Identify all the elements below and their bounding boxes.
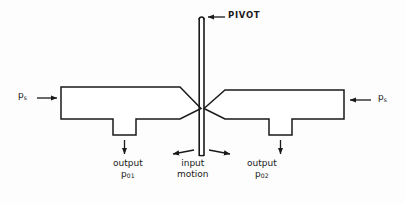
output-right-symbol: p [255, 169, 261, 179]
output-left-label: output p01 [113, 158, 143, 179]
supply-right-subscript: s [384, 96, 387, 103]
supply-left-symbol: p [18, 90, 24, 100]
output-left-symbol: p [121, 169, 127, 179]
supply-pressure-right-label: ps [378, 92, 387, 103]
output-left-word: output [113, 158, 143, 169]
pivot-cap [199, 17, 204, 19]
supply-right-symbol: p [378, 92, 384, 102]
left-nozzle-body [61, 87, 201, 135]
output-right-symbol-group: p02 [247, 169, 277, 180]
input-motion-line2: motion [177, 169, 209, 180]
input-motion-label: input motion [177, 158, 209, 179]
output-left-sub-subscript: 1 [131, 172, 135, 179]
motion-arrow-left [173, 150, 194, 154]
pivot-label: PIVOT [228, 10, 260, 20]
motion-arrow-right [209, 150, 230, 154]
output-left-symbol-group: p01 [113, 169, 143, 180]
flapper-nozzle-diagram: PIVOT ps ps output p01 input motion outp… [0, 0, 405, 203]
input-motion-line1: input [177, 158, 209, 169]
right-nozzle-body [204, 90, 344, 135]
output-right-sub-subscript: 2 [265, 172, 269, 179]
output-right-label: output p02 [247, 158, 277, 179]
flapper-rod [199, 18, 204, 156]
supply-left-subscript: s [24, 94, 27, 101]
supply-pressure-left-label: ps [18, 90, 27, 101]
output-right-word: output [247, 158, 277, 169]
